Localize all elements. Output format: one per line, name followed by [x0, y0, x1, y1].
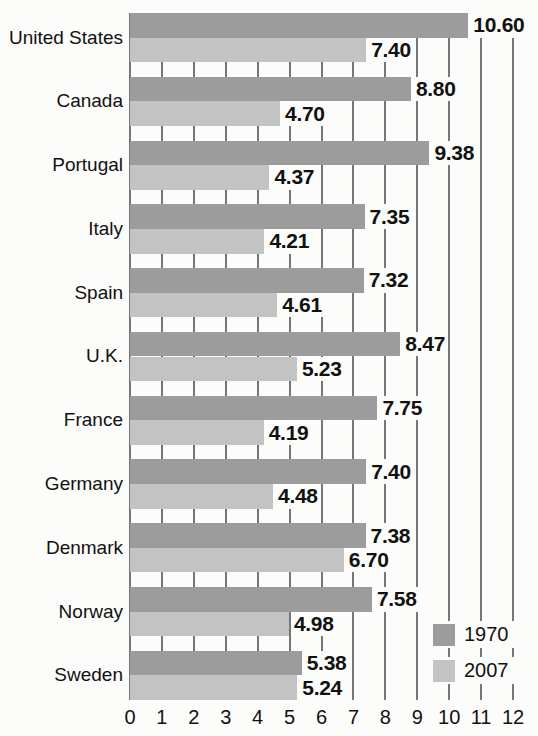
x-tick-label: 3: [208, 706, 244, 729]
value-label: 4.19: [266, 420, 312, 445]
bar-2007: [130, 293, 277, 318]
x-tick-label: 2: [176, 706, 212, 729]
value-label: 7.58: [374, 587, 420, 612]
value-label: 4.48: [275, 484, 321, 509]
value-label: 4.61: [279, 293, 325, 318]
bar-1970: [130, 13, 468, 38]
value-label: 5.23: [299, 357, 345, 382]
value-label: 5.24: [299, 675, 345, 700]
value-label: 8.80: [413, 77, 459, 102]
bar-1970: [130, 332, 400, 357]
value-label: 7.38: [368, 523, 414, 548]
bar-2007: [130, 38, 366, 63]
bar-1970: [130, 204, 365, 229]
x-tick-label: 10: [431, 706, 467, 729]
category-label: Portugal: [0, 141, 123, 190]
bar-1970: [130, 523, 366, 548]
category-label: France: [0, 396, 123, 445]
x-tick-label: 1: [144, 706, 180, 729]
value-label: 4.37: [271, 165, 317, 190]
grouped-bar-chart: United States10.607.40Canada8.804.70Port…: [0, 0, 538, 736]
x-tick-label: 6: [304, 706, 340, 729]
value-label: 7.40: [368, 38, 414, 63]
legend-swatch-2007: [433, 660, 455, 682]
category-label: Canada: [0, 77, 123, 126]
bar-2007: [130, 229, 264, 254]
x-tick-label: 9: [399, 706, 435, 729]
bar-1970: [130, 77, 411, 102]
bar-1970: [130, 459, 366, 484]
value-label: 7.75: [379, 396, 425, 421]
category-label: Italy: [0, 204, 123, 253]
category-label: Sweden: [0, 651, 123, 700]
bar-2007: [130, 484, 273, 509]
bar-2007: [130, 612, 289, 637]
legend-swatch-1970: [433, 624, 455, 646]
value-label: 4.98: [291, 612, 337, 637]
value-label: 7.32: [366, 268, 412, 293]
x-tick-label: 7: [335, 706, 371, 729]
category-label: United States: [0, 13, 123, 62]
value-label: 10.60: [470, 13, 527, 38]
x-tick-label: 4: [240, 706, 276, 729]
legend-item-2007: 2007: [431, 657, 514, 684]
bar-2007: [130, 101, 280, 126]
bar-2007: [130, 420, 264, 445]
value-label: 4.21: [266, 229, 312, 254]
category-label: Denmark: [0, 523, 123, 572]
value-label: 9.38: [431, 141, 477, 166]
value-label: 5.38: [304, 651, 350, 676]
category-label: Spain: [0, 268, 123, 317]
category-label: Germany: [0, 459, 123, 508]
legend-label-1970: 1970: [464, 623, 509, 646]
bar-1970: [130, 141, 429, 166]
category-label: U.K.: [0, 332, 123, 381]
bar-2007: [130, 548, 344, 573]
legend-item-1970: 1970: [431, 621, 514, 648]
x-tick-label: 0: [112, 706, 148, 729]
bar-1970: [130, 396, 377, 421]
value-label: 8.47: [402, 332, 448, 357]
legend-label-2007: 2007: [464, 659, 509, 682]
gridline: [512, 13, 514, 700]
value-label: 6.70: [346, 548, 392, 573]
category-label: Norway: [0, 587, 123, 636]
value-label: 7.40: [368, 459, 414, 484]
bar-2007: [130, 165, 269, 190]
bar-2007: [130, 675, 297, 700]
legend: 1970 2007: [431, 621, 514, 693]
bar-1970: [130, 651, 302, 676]
x-tick-label: 12: [495, 706, 531, 729]
bar-1970: [130, 587, 372, 612]
bar-1970: [130, 268, 364, 293]
value-label: 4.70: [282, 101, 328, 126]
x-tick-label: 11: [463, 706, 499, 729]
gridline: [480, 13, 482, 700]
gridline: [448, 13, 450, 700]
value-label: 7.35: [367, 204, 413, 229]
bar-2007: [130, 357, 297, 382]
x-tick-label: 8: [367, 706, 403, 729]
x-tick-label: 5: [272, 706, 308, 729]
